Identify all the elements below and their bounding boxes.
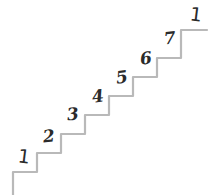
step-label-3: 3 <box>66 105 80 123</box>
staircase-figure: 1 2 3 4 5 6 7 1 <box>0 0 213 195</box>
step-label-4: 4 <box>91 87 105 105</box>
staircase-path-drawing <box>0 0 213 195</box>
step-label-6: 6 <box>139 49 153 67</box>
step-label-5: 5 <box>115 68 129 86</box>
step-label-1-end: 1 <box>189 4 203 24</box>
step-label-1-start: 1 <box>17 146 31 166</box>
step-label-7: 7 <box>163 29 177 47</box>
staircase-polyline <box>13 30 207 195</box>
step-label-2: 2 <box>42 127 56 145</box>
